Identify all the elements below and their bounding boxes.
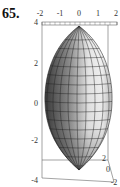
z-tick-label: -4 xyxy=(31,176,38,185)
spindle-surface xyxy=(40,26,118,170)
x-tick-label: 2 xyxy=(114,9,118,18)
x-axis-ticks xyxy=(45,22,110,25)
x-tick-label: 1 xyxy=(96,9,100,18)
x-tick-label: -1 xyxy=(57,9,64,18)
surface-plot: -2 -1 0 1 2 4 2 0 -2 -4 2 0 -2 xyxy=(0,0,120,187)
z-tick-label: -2 xyxy=(31,136,38,145)
z-tick-label: 2 xyxy=(34,59,38,68)
x-tick-label: 0 xyxy=(77,9,81,18)
y-tick-label: 2 xyxy=(102,154,106,163)
z-tick-label: 4 xyxy=(34,18,38,27)
z-tick-label: 0 xyxy=(34,99,38,108)
y-tick-label: -2 xyxy=(111,178,118,187)
y-tick-label: 0 xyxy=(106,165,110,174)
x-tick-label: -2 xyxy=(37,9,44,18)
